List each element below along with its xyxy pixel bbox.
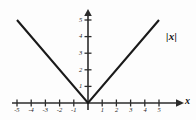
graph-canvas	[0, 0, 196, 120]
x-axis-label: x	[185, 96, 190, 106]
x-tick-label-neg3: -3	[43, 107, 48, 114]
x-tick-label-neg5: -5	[14, 107, 19, 114]
x-tick-label-1: 1	[101, 107, 104, 114]
x-tick-label-5: 5	[158, 107, 161, 114]
y-tick-label-4: 4	[79, 33, 82, 40]
y-tick-label-1: 1	[79, 83, 82, 90]
x-tick-label-neg1: -1	[71, 107, 76, 114]
x-axis-arrow-icon	[176, 99, 184, 107]
x-tick-label-2: 2	[115, 107, 118, 114]
y-tick-label-5: 5	[79, 17, 82, 24]
x-tick-label-3: 3	[129, 107, 132, 114]
absolute-value-graph: -5 -4 -3 -2 -1 1 2 3 4 5 1 2 3 4 5 x |x|	[0, 0, 196, 120]
x-tick-label-neg2: -2	[57, 107, 62, 114]
x-tick-label-neg4: -4	[28, 107, 33, 114]
y-tick-label-3: 3	[79, 50, 82, 57]
x-tick-label-4: 4	[143, 107, 146, 114]
y-axis-arrow-icon	[84, 9, 92, 16]
y-tick-label-2: 2	[79, 67, 82, 74]
curve-label-absolute-value: |x|	[166, 31, 177, 42]
